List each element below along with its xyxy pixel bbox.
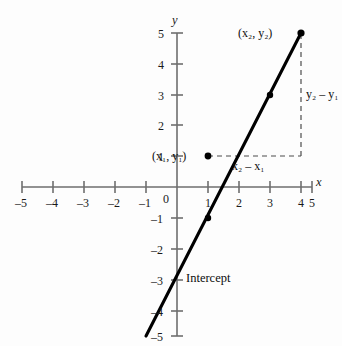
plot-canvas — [0, 0, 342, 346]
y-tick-label-neg4: –4 — [151, 306, 163, 318]
x-tick-label-neg2: –2 — [108, 197, 120, 209]
y-tick-label-2: 2 — [158, 120, 164, 132]
line-graph-figure: x y –5 –4 –3 –2 –1 0 1 2 3 4 5 5 4 3 2 1… — [0, 0, 342, 346]
x-axis-label: x — [316, 176, 322, 189]
point-x1y1-label: (x₁, y₁) — [152, 150, 186, 162]
rise-label: y₂ – y₁ — [306, 88, 338, 100]
x-tick-label-neg3: –3 — [77, 197, 89, 209]
x-tick-label-neg5: –5 — [15, 197, 27, 209]
y-tick-label-neg1: –1 — [151, 213, 163, 225]
x-tick-label-5: 5 — [309, 197, 315, 209]
y-tick-label-5: 5 — [158, 28, 164, 40]
data-point-3-3 — [267, 92, 273, 98]
x-tick-label-2: 2 — [236, 197, 242, 209]
x-tick-label-1: 1 — [205, 197, 211, 209]
point-x2y2-label: (x₂, y₂) — [238, 27, 272, 39]
plotted-line — [146, 33, 301, 336]
y-tick-label-3: 3 — [158, 90, 164, 102]
x-tick-label-3: 3 — [267, 197, 273, 209]
data-point-x1y1 — [205, 153, 212, 160]
y-tick-label-neg5: –5 — [151, 331, 163, 343]
origin-label: 0 — [163, 193, 169, 205]
x-tick-label-4: 4 — [298, 197, 304, 209]
y-tick-label-neg2: –2 — [151, 244, 163, 256]
y-tick-label-4: 4 — [158, 59, 164, 71]
x-tick-label-neg4: –4 — [46, 197, 58, 209]
run-label: x₂ – x₁ — [232, 160, 264, 172]
x-tick-label-neg1: –1 — [139, 197, 151, 209]
intercept-label: Intercept — [186, 272, 230, 285]
y-axis-label: y — [172, 14, 178, 27]
y-tick-label-neg3: –3 — [151, 275, 163, 287]
data-point-1-neg1 — [205, 215, 211, 221]
data-point-x2y2 — [297, 29, 304, 36]
